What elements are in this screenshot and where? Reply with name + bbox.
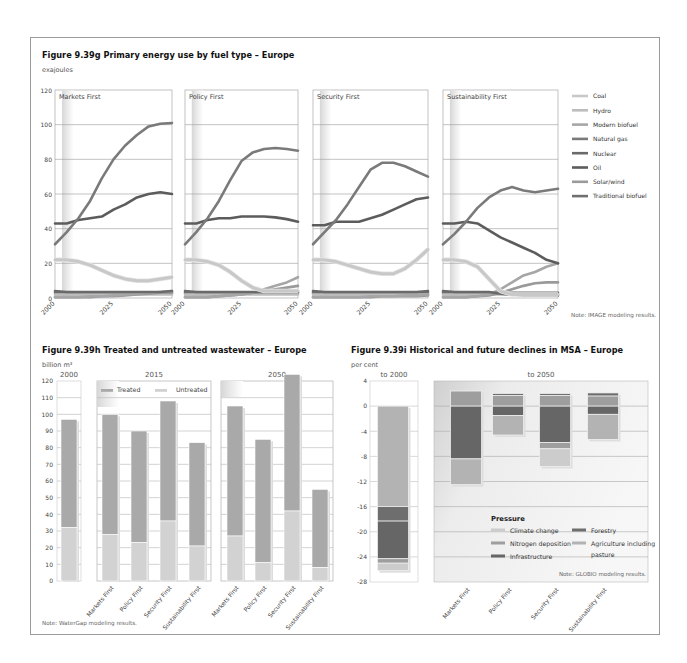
figure-frame: [30, 37, 660, 635]
figure-h-note: Note: WaterGap modeling results.: [42, 620, 137, 626]
figure-h-title: Figure 9.39h Treated and untreated waste…: [42, 345, 307, 355]
figure-g-title: Figure 9.39g Primary energy use by fuel …: [42, 50, 294, 60]
figure-i-unit: per cent: [351, 361, 378, 369]
figure-g-unit: exajoules: [42, 66, 73, 74]
figure-h-unit: billion m³: [42, 361, 72, 369]
figure-i-title: Figure 9.39i Historical and future decli…: [351, 345, 623, 355]
figure-g-note: Note: IMAGE modeling results.: [571, 312, 656, 318]
